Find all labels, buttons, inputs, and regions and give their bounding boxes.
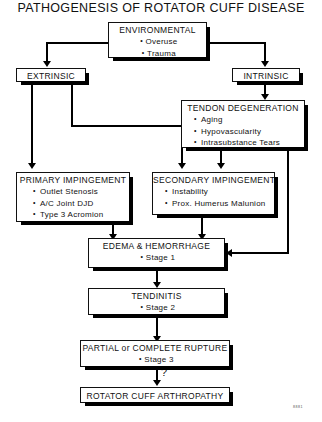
box-shadow-bottom: [85, 402, 233, 406]
node-primary-impingement-heading: PRIMARY IMPINGEMENT: [17, 173, 129, 185]
arrowhead-to-secondary-impingement-left: [178, 163, 186, 169]
node-environmental[interactable]: ENVIRONMENTAL Overuse Trauma: [108, 22, 207, 58]
node-tendon-degeneration-items: Aging Hypovascularity Intrasubstance Tea…: [182, 113, 304, 149]
node-tendinitis[interactable]: TENDINITIS Stage 2: [88, 288, 225, 315]
node-edema-hemorrhage-heading: EDEMA & HEMORRHAGE: [89, 239, 224, 251]
box-shadow-bottom: [186, 147, 308, 151]
connector-environmental-to-extrinsic-v: [46, 42, 48, 62]
connector-extrinsic-to-primary-v: [31, 82, 33, 164]
box-shadow-bottom: [85, 366, 233, 370]
list-item: Aging: [182, 114, 304, 126]
box-shadow-right: [129, 177, 133, 225]
figure-title: PATHOGENESIS OF ROTATOR CUFF DISEASE: [0, 1, 322, 15]
node-primary-impingement-items: Outlet Stenosis A/C Joint DJD Type 3 Acr…: [17, 185, 129, 221]
connector-extrinsic-to-secondary-v1: [71, 82, 73, 126]
node-environmental-items: Overuse Trauma: [109, 35, 206, 59]
box-shadow-bottom: [93, 267, 228, 271]
list-item: Type 3 Acromion: [17, 209, 129, 221]
box-shadow-right: [274, 177, 278, 218]
node-tendon-degeneration-heading: TENDON DEGENERATION: [182, 101, 304, 113]
connector-tendinitis-to-rupture-v: [156, 315, 158, 337]
connector-tendon-to-edema-v: [287, 148, 289, 254]
arrowhead-to-extrinsic: [43, 61, 51, 67]
list-item: Stage 2: [89, 302, 224, 314]
arrowhead-to-primary-impingement: [28, 163, 36, 169]
box-shadow-right: [304, 105, 308, 151]
connector-environmental-to-extrinsic-h: [46, 42, 109, 44]
node-edema-hemorrhage-items: Stage 1: [89, 251, 224, 264]
connector-environmental-to-intrinsic-v: [264, 42, 266, 62]
box-shadow-bottom: [21, 221, 133, 225]
list-item: Outlet Stenosis: [17, 186, 129, 198]
box-shadow-bottom: [21, 81, 89, 85]
arrowhead-to-intrinsic: [261, 61, 269, 67]
node-extrinsic-heading: EXTRINSIC: [17, 69, 85, 81]
node-secondary-impingement[interactable]: SECONDARY IMPINGEMENT Instability Prox. …: [152, 172, 275, 215]
list-item: A/C Joint DJD: [17, 198, 129, 210]
node-secondary-impingement-items: Instability Prox. Humerus Malunion: [153, 185, 274, 209]
node-rupture-heading: PARTIAL or COMPLETE RUPTURE: [81, 341, 229, 353]
node-intrinsic-heading: INTRINSIC: [233, 69, 299, 81]
box-shadow-right: [206, 27, 210, 61]
box-shadow-bottom: [93, 314, 228, 318]
list-item: Hypovascularity: [182, 126, 304, 138]
list-item: Prox. Humerus Malunion: [153, 198, 274, 210]
list-item: Stage 1: [89, 252, 224, 264]
arrowhead-to-secondary-impingement-top: [217, 163, 225, 169]
box-shadow-bottom: [113, 57, 210, 61]
connector-environmental-to-intrinsic-h: [206, 42, 266, 44]
node-environmental-heading: ENVIRONMENTAL: [109, 23, 206, 35]
connector-secondary-to-edema-v: [201, 215, 203, 236]
box-shadow-bottom: [157, 214, 278, 218]
node-tendinitis-items: Stage 2: [89, 301, 224, 314]
node-secondary-impingement-heading: SECONDARY IMPINGEMENT: [153, 173, 274, 185]
list-item: Stage 3: [81, 354, 229, 366]
list-item: Overuse: [109, 36, 206, 48]
arrowhead-to-arthropathy: [153, 380, 161, 386]
node-intrinsic[interactable]: INTRINSIC: [232, 68, 300, 82]
node-primary-impingement[interactable]: PRIMARY IMPINGEMENT Outlet Stenosis A/C …: [16, 172, 130, 222]
node-rupture[interactable]: PARTIAL or COMPLETE RUPTURE Stage 3: [80, 340, 230, 367]
node-arthropathy-heading: ROTATOR CUFF ARTHROPATHY: [81, 388, 229, 401]
figure-code: 8881: [293, 405, 303, 409]
node-arthropathy[interactable]: ROTATOR CUFF ARTHROPATHY: [80, 387, 230, 403]
flowchart-figure: PATHOGENESIS OF ROTATOR CUFF DISEASE ? E…: [0, 0, 322, 422]
node-rupture-items: Stage 3: [81, 353, 229, 366]
node-edema-hemorrhage[interactable]: EDEMA & HEMORRHAGE Stage 1: [88, 238, 225, 268]
connector-extrinsic-to-secondary-h: [71, 125, 183, 127]
box-shadow-bottom: [237, 81, 303, 85]
node-extrinsic[interactable]: EXTRINSIC: [16, 68, 86, 82]
node-tendon-degeneration[interactable]: TENDON DEGENERATION Aging Hypovascularit…: [181, 100, 305, 148]
node-tendinitis-heading: TENDINITIS: [89, 289, 224, 301]
list-item: Instability: [153, 186, 274, 198]
connector-tendon-to-edema-h: [232, 252, 289, 254]
